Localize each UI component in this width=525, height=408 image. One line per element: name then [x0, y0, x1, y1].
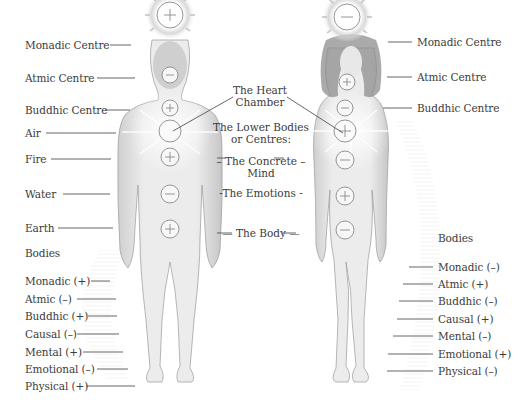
- male-air-centre: [159, 120, 181, 142]
- body-item: Causal (–): [25, 328, 77, 340]
- body-item: Atmic (+): [438, 278, 488, 290]
- body-item: Emotional (–): [25, 363, 95, 375]
- label-buddhic-centre-right: Buddhic Centre: [417, 102, 499, 114]
- aura-hatching-right: [395, 120, 441, 390]
- concrete-mind-label: – The Concrete – Mind: [213, 155, 309, 179]
- body-item: Atmic (–): [25, 293, 72, 305]
- label-monadic-centre-right: Monadic Centre: [417, 36, 501, 48]
- body-item: Emotional (+): [438, 348, 511, 360]
- label-monadic-centre-left: Monadic Centre: [25, 39, 109, 51]
- label-atmic-centre-right: Atmic Centre: [417, 71, 486, 83]
- bodies-heading-left: Bodies: [25, 247, 60, 259]
- label-fire: Fire: [25, 153, 46, 165]
- body-item: Mental (–): [438, 330, 491, 342]
- label-water: Water: [25, 188, 56, 200]
- emotions-label: -The Emotions -: [213, 187, 309, 199]
- label-earth: Earth: [25, 222, 54, 234]
- body-item: Monadic (+): [25, 275, 90, 287]
- label-air: Air: [25, 127, 41, 139]
- label-buddhic-centre-left: Buddhic Centre: [25, 104, 107, 116]
- male-figure: [118, 40, 223, 382]
- body-label: — The Body —: [213, 227, 309, 239]
- bodies-heading-right: Bodies: [438, 232, 473, 244]
- aura-hatching-left: [82, 250, 130, 380]
- heart-chamber-label: The Heart Chamber: [225, 84, 295, 108]
- body-item: Physical (–): [438, 365, 498, 377]
- body-item: Physical (+): [25, 380, 88, 392]
- lower-bodies-label: The Lower Bodies or Centres:: [213, 121, 309, 145]
- body-item: Buddhic (–): [438, 295, 498, 307]
- body-item: Causal (+): [438, 313, 493, 325]
- body-item: Monadic (–): [438, 261, 500, 273]
- body-item: Buddhic (+): [25, 310, 88, 322]
- body-item: Mental (+): [25, 346, 82, 358]
- label-atmic-centre-left: Atmic Centre: [25, 72, 94, 84]
